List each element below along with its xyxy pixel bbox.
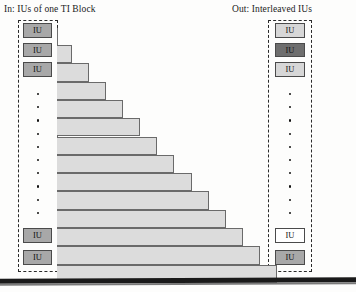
bar — [57, 82, 106, 100]
output-iu-box: IU — [275, 23, 305, 38]
page-edge-shadow — [0, 282, 356, 285]
bar — [57, 246, 260, 264]
input-iu-box: IU — [23, 62, 52, 77]
ellipsis-dot — [37, 146, 39, 148]
ellipsis-dot — [37, 212, 39, 214]
bar — [57, 118, 140, 136]
bar — [57, 100, 123, 118]
input-iu-box: IU — [23, 250, 52, 265]
output-column-title: Out: Interleaved IUs — [232, 4, 312, 14]
bar — [57, 45, 72, 63]
input-column-title: In: IUs of one TI Block — [4, 4, 96, 14]
output-iu-box: IU — [275, 228, 305, 243]
ellipsis-dot — [37, 93, 39, 95]
bar — [57, 63, 89, 81]
bar — [57, 155, 174, 173]
bar — [57, 191, 209, 209]
bar — [57, 228, 243, 246]
output-iu-box: IU — [275, 62, 305, 77]
output-iu-box: IU — [275, 250, 305, 265]
ellipsis-dot — [289, 133, 291, 135]
output-iu-box: IU — [275, 43, 305, 58]
ellipsis-dot — [37, 119, 39, 121]
ellipsis-dot — [289, 199, 291, 201]
input-iu-box: IU — [23, 43, 52, 58]
ellipsis-dot — [37, 185, 39, 187]
ellipsis-dot — [37, 133, 39, 135]
ellipsis-dot — [37, 159, 39, 161]
input-iu-box: IU — [23, 228, 52, 243]
ellipsis-dot — [37, 199, 39, 201]
bar — [57, 210, 226, 228]
input-iu-box: IU — [23, 23, 52, 38]
ellipsis-dot — [289, 185, 291, 187]
figure-canvas: In: IUs of one TI Block Out: Interleaved… — [0, 0, 356, 292]
bar — [57, 137, 157, 155]
bar — [57, 173, 192, 191]
ellipsis-dot — [289, 119, 291, 121]
